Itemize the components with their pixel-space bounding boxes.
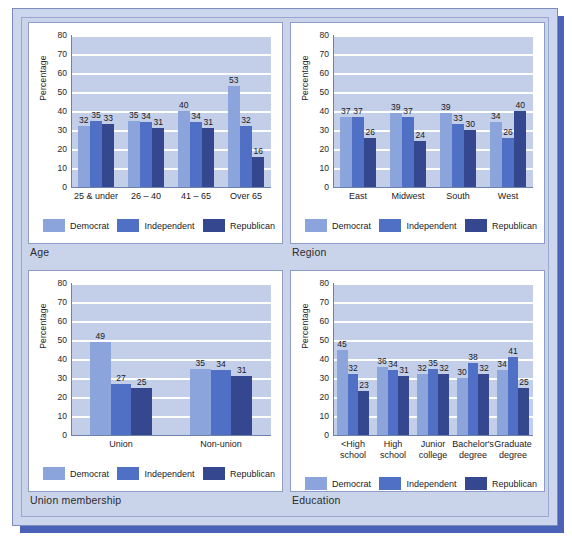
- bar: [190, 369, 211, 436]
- legend-swatch-icon: [465, 477, 487, 490]
- legend-item[interactable]: Republican: [465, 219, 537, 232]
- x-axis-tick-label: Union: [109, 439, 133, 450]
- chart-frame: Percentage01020304050607080492725353431U…: [28, 270, 283, 492]
- y-axis-tick-label: 60: [309, 68, 329, 78]
- x-axis-tick-label: South: [446, 191, 470, 202]
- bar: [464, 130, 476, 187]
- legend-label: Republican: [492, 479, 537, 489]
- y-axis-ticks: 01020304050607080: [47, 283, 67, 435]
- y-axis-tick-label: 70: [309, 49, 329, 59]
- bar: [508, 357, 519, 435]
- bar: [228, 86, 240, 187]
- bar-chart-union-membership: Percentage01020304050607080492725353431U…: [29, 271, 282, 491]
- y-axis-line: [333, 283, 334, 435]
- bar-value-label: 39: [441, 102, 450, 112]
- chart-legend: DemocratIndependentRepublican: [305, 219, 537, 232]
- bar-value-label: 32: [417, 363, 426, 373]
- bar: [111, 384, 132, 435]
- x-axis-tick-label: Over 65: [230, 191, 262, 202]
- bar: [211, 370, 232, 435]
- legend-item[interactable]: Independent: [117, 219, 194, 232]
- bar: [388, 370, 399, 435]
- x-axis-tick-label: Graduatedegree: [494, 439, 532, 460]
- bar-value-label: 38: [468, 352, 477, 362]
- y-axis-tick-label: 10: [47, 411, 67, 421]
- bar: [348, 374, 359, 435]
- y-axis-tick-label: 60: [47, 68, 67, 78]
- bar: [231, 376, 252, 435]
- bar: [518, 388, 529, 436]
- legend-item[interactable]: Republican: [203, 467, 275, 480]
- bar-value-label: 26: [503, 127, 512, 137]
- y-axis-tick-label: 80: [47, 278, 67, 288]
- y-axis-line: [71, 35, 72, 187]
- bar: [452, 124, 464, 187]
- bar: [468, 363, 479, 435]
- y-axis-tick-label: 30: [309, 125, 329, 135]
- bar-value-label: 40: [516, 100, 525, 110]
- bar-value-label: 23: [359, 380, 368, 390]
- gridline: [71, 302, 271, 304]
- bar: [78, 126, 90, 187]
- bar-value-label: 24: [416, 130, 425, 140]
- bar-value-label: 26: [366, 127, 375, 137]
- bar-value-label: 35: [428, 358, 437, 368]
- legend-item[interactable]: Democrat: [305, 477, 371, 490]
- y-axis-tick-label: 20: [47, 144, 67, 154]
- bar-value-label: 31: [237, 365, 246, 375]
- bar-value-label: 30: [457, 367, 466, 377]
- bar-value-label: 31: [154, 117, 163, 127]
- bar: [90, 342, 111, 435]
- gridline: [71, 111, 271, 113]
- bar: [440, 113, 452, 187]
- gridline: [333, 302, 533, 304]
- bar: [202, 128, 214, 187]
- bar: [428, 369, 439, 436]
- legend-label: Independent: [144, 221, 194, 231]
- bar-value-label: 16: [254, 146, 263, 156]
- x-axis-tick-label: Juniorcollege: [419, 439, 448, 460]
- x-axis-line: [333, 187, 533, 188]
- y-axis-tick-label: 50: [47, 87, 67, 97]
- chart-frame: Percentage010203040506070803737263937243…: [290, 22, 545, 244]
- bar: [390, 113, 402, 187]
- y-axis-tick-label: 20: [309, 144, 329, 154]
- bar-value-label: 30: [466, 119, 475, 129]
- bar: [457, 378, 468, 435]
- legend-item[interactable]: Democrat: [43, 467, 109, 480]
- bar-value-label: 40: [179, 100, 188, 110]
- legend-swatch-icon: [203, 467, 225, 480]
- x-axis-tick-label: East: [349, 191, 367, 202]
- legend-swatch-icon: [43, 467, 65, 480]
- legend-label: Independent: [406, 221, 456, 231]
- legend-item[interactable]: Republican: [465, 477, 537, 490]
- y-axis-tick-label: 70: [47, 49, 67, 59]
- y-axis-tick-label: 50: [47, 335, 67, 345]
- plot-area: 492725353431: [71, 283, 271, 435]
- x-axis-tick-label: Highschool: [380, 439, 406, 460]
- y-axis-tick-label: 10: [309, 163, 329, 173]
- bar-value-label: 37: [403, 106, 412, 116]
- legend-label: Independent: [144, 469, 194, 479]
- legend-label: Republican: [230, 221, 275, 231]
- legend-item[interactable]: Republican: [203, 219, 275, 232]
- legend-item[interactable]: Independent: [117, 467, 194, 480]
- y-axis-tick-label: 40: [309, 354, 329, 364]
- gridline: [333, 283, 533, 285]
- legend-label: Democrat: [332, 479, 371, 489]
- legend-item[interactable]: Democrat: [43, 219, 109, 232]
- y-axis-tick-label: 40: [309, 106, 329, 116]
- figure-board: Percentage010203040506070803235333534314…: [12, 8, 558, 526]
- legend-item[interactable]: Democrat: [305, 219, 371, 232]
- y-axis-tick-label: 20: [47, 392, 67, 402]
- bar-value-label: 32: [479, 363, 488, 373]
- y-axis-tick-label: 30: [47, 373, 67, 383]
- legend-label: Republican: [492, 221, 537, 231]
- legend-swatch-icon: [379, 219, 401, 232]
- legend-item[interactable]: Independent: [379, 477, 456, 490]
- legend-item[interactable]: Independent: [379, 219, 456, 232]
- x-axis-tick-label: 41 – 65: [181, 191, 211, 202]
- chart-panel-age: Percentage010203040506070803235333534314…: [28, 22, 283, 268]
- y-axis-ticks: 01020304050607080: [47, 35, 67, 187]
- chart-panel-union-membership: Percentage01020304050607080492725353431U…: [28, 270, 283, 516]
